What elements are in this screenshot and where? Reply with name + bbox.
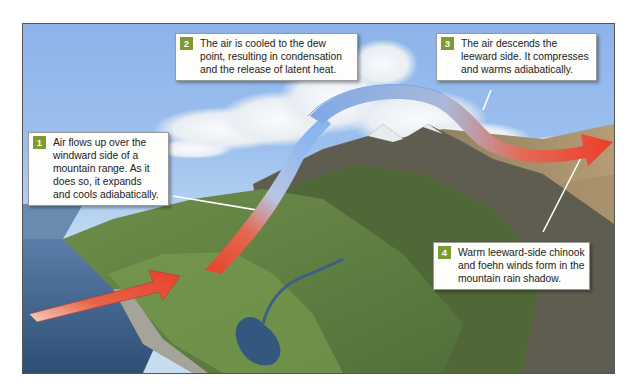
step-badge-4: 4 xyxy=(438,246,451,259)
callout-3: 3 The air descends the leeward side. It … xyxy=(436,33,597,81)
callout-2-line-2: point, resulting in condensation xyxy=(200,50,351,63)
callout-1-line-5: and cools adiabatically. xyxy=(53,188,162,201)
callout-4-line-2: and foehn winds form in the xyxy=(458,259,583,272)
callout-3-line-2: leeward side. It compresses xyxy=(461,50,590,63)
callout-4: 4 Warm leeward-side chinook and foehn wi… xyxy=(433,242,590,290)
callout-1-line-3: mountain range. As it xyxy=(53,162,162,175)
step-badge-1: 1 xyxy=(33,136,46,149)
step-badge-3: 3 xyxy=(441,37,454,50)
callout-1-line-1: Air flows up over the xyxy=(53,136,162,149)
illustration-frame: 1 Air flows up over the windward side of… xyxy=(22,23,615,374)
callout-1-line-4: does so, it expands xyxy=(53,175,162,188)
callout-4-line-3: mountain rain shadow. xyxy=(458,272,583,285)
callout-3-line-1: The air descends the xyxy=(461,37,590,50)
callout-2-line-1: The air is cooled to the dew xyxy=(200,37,351,50)
callout-1: 1 Air flows up over the windward side of… xyxy=(28,132,169,206)
callout-2: 2 The air is cooled to the dew point, re… xyxy=(175,33,358,81)
step-badge-2: 2 xyxy=(180,37,193,50)
callout-4-line-1: Warm leeward-side chinook xyxy=(458,246,583,259)
callout-1-line-2: windward side of a xyxy=(53,149,162,162)
callout-3-line-3: and warms adiabatically. xyxy=(461,63,590,76)
callout-2-line-3: and the release of latent heat. xyxy=(200,63,351,76)
